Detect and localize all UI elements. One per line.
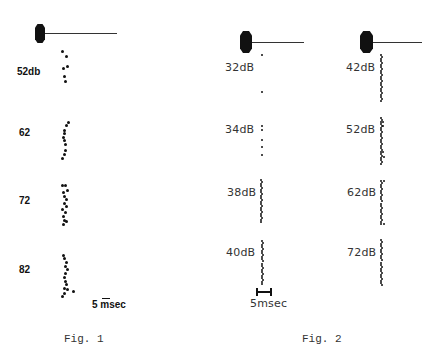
- response-dot: [63, 276, 66, 279]
- response-dot: [261, 283, 263, 285]
- fig1-scale-unit: msec: [100, 299, 126, 310]
- fig2-intensity-label: 62dB: [347, 186, 376, 199]
- response-dot: [65, 220, 68, 223]
- fig2-intensity-label: 52dB: [346, 123, 375, 136]
- hammer-head-icon: [360, 31, 373, 53]
- fig1-intensity-label: 52db: [17, 66, 40, 77]
- response-dot: [66, 268, 69, 271]
- response-dot: [63, 257, 66, 260]
- response-dot: [64, 143, 67, 146]
- response-dot: [63, 132, 66, 135]
- response-dot: [64, 149, 67, 152]
- response-dot: [62, 67, 65, 70]
- response-dot: [261, 129, 263, 131]
- response-dot: [260, 221, 262, 223]
- response-dot: [383, 180, 385, 182]
- response-dot: [261, 54, 263, 56]
- response-dot: [382, 151, 384, 153]
- fig2-intensity-label: 72dB: [347, 246, 376, 259]
- fig2-intensity-label: 32dB: [225, 61, 254, 74]
- response-dot: [62, 223, 65, 226]
- response-dot: [64, 184, 67, 187]
- response-dot: [61, 157, 64, 160]
- fig2-scale-bar-tick-right: [270, 288, 272, 296]
- response-dot: [380, 163, 382, 165]
- response-dot: [63, 195, 66, 198]
- response-dot: [380, 223, 382, 225]
- response-dot: [62, 215, 65, 218]
- response-dot: [65, 198, 68, 201]
- hammer-rod: [252, 42, 304, 43]
- response-dot: [261, 154, 263, 156]
- fig1-caption: Fig. 1: [64, 333, 104, 345]
- response-dot: [64, 272, 67, 275]
- response-dot: [65, 124, 68, 127]
- response-dot: [66, 189, 69, 192]
- fig1-intensity-label: 72: [19, 195, 30, 206]
- response-dot: [380, 100, 382, 102]
- response-dot: [63, 153, 66, 156]
- response-dot: [383, 156, 385, 158]
- response-dot: [63, 202, 66, 205]
- response-dot: [381, 284, 383, 286]
- response-dot: [65, 261, 68, 264]
- response-dot: [261, 146, 263, 148]
- response-dot: [65, 283, 68, 286]
- response-dot: [61, 50, 64, 53]
- fig2-intensity-label: 34dB: [225, 123, 254, 136]
- response-dot: [62, 191, 65, 194]
- response-dot: [61, 295, 64, 298]
- response-dot: [261, 139, 263, 141]
- response-dot: [261, 125, 263, 127]
- response-dot: [383, 223, 385, 225]
- response-dot: [64, 211, 67, 214]
- hammer-head-icon: [240, 31, 252, 53]
- fig1-scale-number: 5: [92, 299, 98, 310]
- response-dot: [66, 65, 69, 68]
- response-dot: [63, 139, 66, 142]
- response-dot: [63, 75, 66, 78]
- fig1-intensity-label: 82: [19, 264, 30, 275]
- response-dot: [67, 121, 70, 124]
- response-dot: [61, 208, 64, 211]
- response-dot: [261, 91, 263, 93]
- fig2-caption: Fig. 2: [302, 333, 342, 345]
- response-dot: [63, 292, 66, 295]
- fig2-scale-bar-tick-left: [256, 288, 258, 296]
- hammer-head-icon: [35, 24, 45, 43]
- fig1-scale-label: 5 msec: [92, 299, 126, 310]
- fig1-intensity-label: 62: [19, 127, 30, 138]
- response-dot: [64, 265, 67, 268]
- fig2-intensity-label: 38dB: [227, 186, 256, 199]
- response-dot: [382, 121, 384, 123]
- response-dot: [382, 125, 384, 127]
- fig2-scale-label: 5msec: [250, 297, 287, 310]
- response-dot: [64, 80, 67, 83]
- response-dot: [72, 290, 75, 293]
- fig2-intensity-label: 42dB: [346, 61, 375, 74]
- response-dot: [65, 55, 68, 58]
- hammer-rod: [373, 42, 422, 43]
- fig2-intensity-label: 40dB: [226, 246, 255, 259]
- hammer-rod: [45, 33, 117, 34]
- response-dot: [66, 288, 69, 291]
- response-dot: [65, 205, 68, 208]
